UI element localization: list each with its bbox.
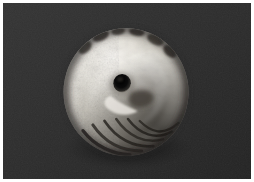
- seashell-photograph: [3, 3, 251, 179]
- photo-frame: Close-up photograph of a pale grey-white…: [0, 0, 254, 182]
- shell-aperture: [109, 73, 134, 96]
